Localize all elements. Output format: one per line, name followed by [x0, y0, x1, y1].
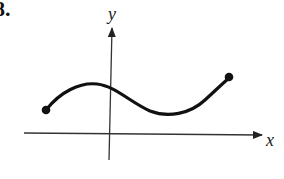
y-axis-label: y [106, 4, 116, 24]
x-axis [24, 133, 262, 135]
y-axis [109, 28, 112, 160]
right-endpoint-dot [225, 73, 234, 82]
graph-diagram: y x [0, 0, 284, 179]
left-endpoint-dot [42, 106, 51, 115]
function-curve [46, 78, 229, 114]
x-axis-label: x [265, 130, 274, 150]
